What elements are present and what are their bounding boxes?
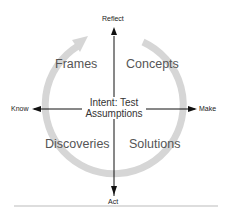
arrow-left-icon xyxy=(32,106,41,112)
axis-label-know: Know xyxy=(11,105,29,112)
quadrant-frames: Frames xyxy=(55,57,97,71)
center-line-2: Assumptions xyxy=(84,108,144,119)
center-line-1: Intent: Test xyxy=(84,97,144,108)
axis-label-make: Make xyxy=(199,105,216,112)
quadrant-discoveries: Discoveries xyxy=(45,137,110,151)
axis-label-act: Act xyxy=(108,198,118,205)
arrow-up-icon xyxy=(111,27,117,35)
quadrant-concepts: Concepts xyxy=(126,57,179,71)
arrow-down-icon xyxy=(111,186,117,195)
arrow-right-icon xyxy=(188,106,197,112)
center-intent: Intent: Test Assumptions xyxy=(82,97,146,119)
quadrant-solutions: Solutions xyxy=(129,137,180,151)
axis-label-reflect: Reflect xyxy=(102,15,124,22)
